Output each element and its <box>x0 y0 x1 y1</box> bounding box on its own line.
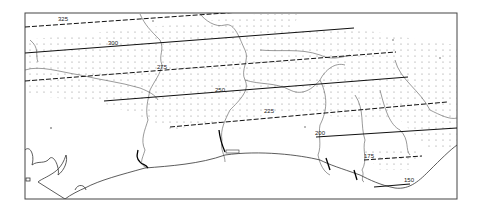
isoline-label: 225 <box>264 108 275 114</box>
isoline-label: 175 <box>364 153 375 159</box>
isoline-label: 200 <box>315 130 326 136</box>
isoline-label: 150 <box>404 177 415 183</box>
isoline-label: 275 <box>157 64 168 70</box>
isoline-label: 300 <box>108 40 119 46</box>
isoline-label: 325 <box>58 16 69 22</box>
isoline-label: 250 <box>215 87 226 93</box>
isoline-map: 325 300 275 250 225 200 175 150 <box>0 0 482 213</box>
